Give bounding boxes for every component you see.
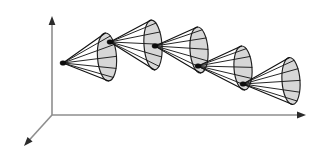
cone-chain-svg (0, 0, 329, 163)
y-axis-arrowhead (49, 16, 56, 25)
cone-1-apex-dot (60, 61, 66, 66)
z-axis-line (29, 115, 52, 140)
cone-3-apex-dot (152, 44, 158, 49)
cones-group (60, 19, 302, 105)
cone-4-apex-dot (195, 64, 201, 69)
x-axis-arrowhead (297, 112, 306, 119)
figure-canvas (0, 0, 329, 163)
cone-2-apex-dot (107, 40, 113, 45)
axes-group (24, 16, 306, 146)
cone-5-apex-dot (240, 82, 246, 87)
